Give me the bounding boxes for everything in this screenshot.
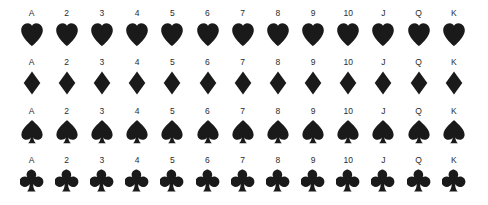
card-cell[interactable]: K [436,57,471,106]
rank-label: Q [415,155,422,166]
heart-icon [407,21,431,47]
heart-icon [55,21,79,47]
card-cell[interactable]: 3 [84,57,119,106]
diamond-icon [442,70,466,96]
card-cell[interactable]: 3 [84,155,119,204]
rank-label: A [29,106,35,117]
card-cell[interactable]: 9 [296,57,331,106]
heart-icon [301,21,325,47]
rank-label: 6 [205,57,210,68]
card-cell[interactable]: A [14,8,49,57]
card-cell[interactable]: 2 [49,8,84,57]
card-cell[interactable]: 3 [84,106,119,155]
card-cell[interactable]: 9 [296,106,331,155]
card-cell[interactable]: 2 [49,155,84,204]
spade-icon [196,119,220,145]
rank-label: Q [415,106,422,117]
rank-label: K [451,8,457,19]
card-cell[interactable]: 9 [296,8,331,57]
rank-label: Q [415,8,422,19]
card-cell[interactable]: 4 [120,8,155,57]
card-cell[interactable]: Q [401,155,436,204]
card-cell[interactable]: J [366,106,401,155]
card-cell[interactable]: 4 [120,155,155,204]
card-cell[interactable]: 2 [49,106,84,155]
rank-label: 3 [100,8,105,19]
card-cell[interactable]: 10 [331,155,366,204]
card-cell[interactable]: 7 [225,106,260,155]
card-cell[interactable]: 4 [120,106,155,155]
card-cell[interactable]: 6 [190,106,225,155]
rank-label: 9 [311,8,316,19]
spade-icon [266,119,290,145]
rank-label: 10 [343,155,353,166]
card-cell[interactable]: J [366,8,401,57]
rank-label: 2 [64,155,69,166]
club-icon [160,168,184,194]
rank-label: 6 [205,8,210,19]
spade-icon [407,119,431,145]
card-cell[interactable]: 7 [225,57,260,106]
diamond-icon [125,70,149,96]
rank-label: 7 [240,57,245,68]
rank-label: 9 [311,57,316,68]
rank-label: 4 [135,106,140,117]
club-icon [125,168,149,194]
club-icon [196,168,220,194]
card-cell[interactable]: 2 [49,57,84,106]
spade-icon [231,119,255,145]
card-cell[interactable]: K [436,106,471,155]
rank-label: A [29,57,35,68]
rank-label: 10 [343,57,353,68]
card-deck-grid: A 2 3 4 5 [0,0,488,205]
diamond-icon [55,70,79,96]
rank-label: 5 [170,106,175,117]
rank-label: A [29,155,35,166]
club-icon [336,168,360,194]
card-cell[interactable]: 6 [190,155,225,204]
card-cell[interactable]: 5 [155,155,190,204]
card-cell[interactable]: 10 [331,8,366,57]
card-cell[interactable]: Q [401,57,436,106]
card-cell[interactable]: Q [401,106,436,155]
card-cell[interactable]: 3 [84,8,119,57]
rank-label: J [381,8,385,19]
card-cell[interactable]: 5 [155,57,190,106]
club-icon [266,168,290,194]
card-cell[interactable]: 7 [225,155,260,204]
card-cell[interactable]: 8 [260,155,295,204]
rank-label: 4 [135,57,140,68]
rank-label: K [451,155,457,166]
card-cell[interactable]: 6 [190,57,225,106]
spade-icon [371,119,395,145]
card-cell[interactable]: 5 [155,8,190,57]
card-cell[interactable]: 8 [260,106,295,155]
spade-icon [336,119,360,145]
card-cell[interactable]: A [14,106,49,155]
card-cell[interactable]: A [14,155,49,204]
club-icon [301,168,325,194]
card-cell[interactable]: J [366,155,401,204]
card-cell[interactable]: 4 [120,57,155,106]
club-icon [55,168,79,194]
card-cell[interactable]: 5 [155,106,190,155]
rank-label: 5 [170,155,175,166]
card-cell[interactable]: 8 [260,8,295,57]
card-cell[interactable]: 7 [225,8,260,57]
card-cell[interactable]: J [366,57,401,106]
diamond-icon [196,70,220,96]
card-cell[interactable]: 10 [331,57,366,106]
card-cell[interactable]: A [14,57,49,106]
spade-icon [90,119,114,145]
card-cell[interactable]: 6 [190,8,225,57]
card-cell[interactable]: K [436,155,471,204]
card-cell[interactable]: Q [401,8,436,57]
card-cell[interactable]: K [436,8,471,57]
spade-icon [442,119,466,145]
rank-label: Q [415,57,422,68]
card-cell[interactable]: 8 [260,57,295,106]
diamond-icon [407,70,431,96]
suit-row-hearts: A 2 3 4 5 [0,8,488,57]
card-cell[interactable]: 9 [296,155,331,204]
card-cell[interactable]: 10 [331,106,366,155]
